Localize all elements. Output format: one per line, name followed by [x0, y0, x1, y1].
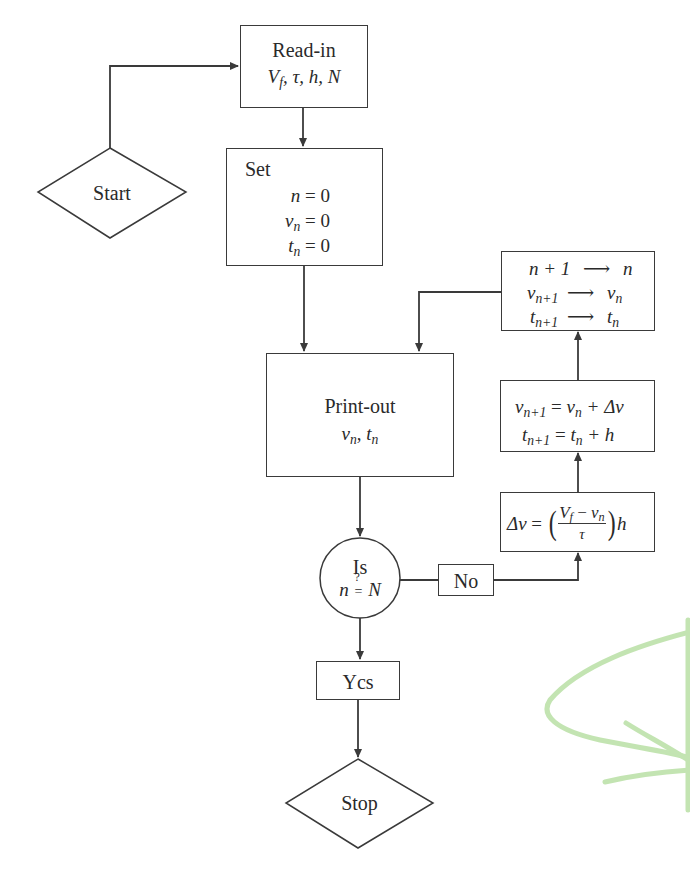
delta-v-box: Δv = ( Vf − vn τ ) h — [500, 492, 655, 552]
highlighter-scribble — [547, 620, 690, 810]
set-line-v: vn = 0 — [285, 211, 330, 230]
increment-box: n + 1 ⟶ n vn+1 ⟶ vn tn+1 ⟶ tn — [501, 251, 655, 331]
decision-node: Is n ? = N — [320, 538, 400, 618]
set-box: Set n = 0 vn = 0 tn = 0 — [226, 148, 383, 266]
arrow-increment-to-printout — [419, 292, 501, 351]
start-label: Start — [38, 183, 186, 203]
decision-title: Is — [320, 557, 400, 577]
stop-node: Stop — [286, 759, 433, 848]
delta-v-formula: Δv = ( Vf − vn τ ) h — [507, 501, 627, 545]
decision-condition: n ? = N — [320, 580, 400, 599]
read-in-params: Vf, τ, h, N — [241, 67, 367, 86]
arrow-icon: ⟶ — [583, 258, 610, 279]
print-out-box: Print-out vn, tn — [266, 353, 454, 477]
increment-line-v: vn+1 ⟶ vn — [527, 283, 622, 302]
arrow-icon: ⟶ — [567, 306, 594, 327]
increment-line-t: tn+1 ⟶ tn — [530, 307, 619, 326]
read-in-box: Read-in Vf, τ, h, N — [240, 25, 368, 108]
no-label: No — [439, 571, 493, 591]
update-line-t: tn+1 = tn + h — [522, 425, 614, 444]
print-out-title: Print-out — [267, 396, 453, 416]
set-line-t: tn = 0 — [288, 236, 330, 255]
set-title: Set — [245, 159, 271, 179]
set-line-n: n = 0 — [291, 186, 330, 205]
increment-line-n: n + 1 ⟶ n — [529, 259, 633, 278]
update-box: vn+1 = vn + Δv tn+1 = tn + h — [500, 380, 655, 452]
print-out-values: vn, tn — [267, 424, 453, 443]
arrow-icon: ⟶ — [567, 282, 594, 303]
yes-label: Ycs — [317, 672, 399, 692]
yes-box: Ycs — [316, 661, 400, 700]
arrow-start-to-readin — [110, 66, 238, 148]
no-box: No — [438, 564, 494, 596]
read-in-title: Read-in — [241, 40, 367, 60]
update-line-v: vn+1 = vn + Δv — [515, 397, 624, 416]
arrow-no-to-deltav — [493, 553, 578, 580]
stop-label: Stop — [286, 793, 433, 813]
start-node: Start — [38, 148, 186, 238]
